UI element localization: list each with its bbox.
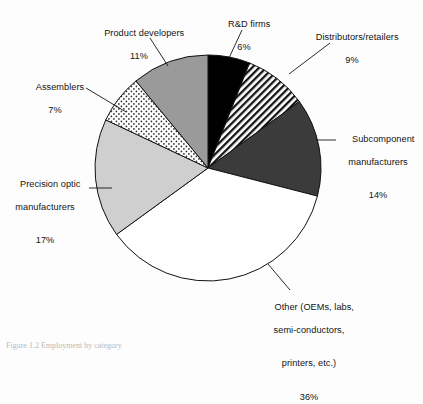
label-precision-optic-line1: Precision optic xyxy=(20,179,81,189)
label-other-line1: Other (OEMs, labs, xyxy=(274,302,354,312)
label-distributors-pct: 9% xyxy=(285,55,419,66)
label-distributors: Distributors/retailers 9% xyxy=(285,21,419,88)
label-other-pct: 36% xyxy=(248,392,370,403)
label-product-developers: Product developers 11% xyxy=(83,17,195,84)
label-subcomponent: Subcomponent manufacturers 14% xyxy=(334,123,422,224)
label-subcomponent-line2: manufacturers xyxy=(334,157,422,168)
label-assemblers: Assemblers 7% xyxy=(22,71,88,138)
pie-slices-group xyxy=(95,55,321,281)
leader-line-other xyxy=(268,264,290,290)
label-other: Other (OEMs, labs, semi-conductors, prin… xyxy=(248,291,370,404)
label-rd-firms: R&D firms 6% xyxy=(196,8,292,75)
label-product-developers-text: Product developers xyxy=(104,28,184,38)
label-rd-firms-pct: 6% xyxy=(196,42,292,53)
label-precision-optic: Precision optic manufacturers 17% xyxy=(2,168,88,269)
label-rd-firms-text: R&D firms xyxy=(228,19,270,29)
label-product-developers-pct: 11% xyxy=(83,51,195,62)
figure-caption: Figure 1.2 Employment by category xyxy=(6,341,122,350)
label-assemblers-pct: 7% xyxy=(22,105,88,116)
label-subcomponent-pct: 14% xyxy=(334,190,422,201)
label-precision-optic-line2: manufacturers xyxy=(2,202,88,213)
label-precision-optic-pct: 17% xyxy=(2,235,88,246)
label-other-line3: printers, etc.) xyxy=(248,358,370,369)
label-other-line2: semi-conductors, xyxy=(248,325,370,336)
label-distributors-text: Distributors/retailers xyxy=(316,32,399,42)
label-assemblers-text: Assemblers xyxy=(36,82,85,92)
label-subcomponent-line1: Subcomponent xyxy=(352,134,414,144)
